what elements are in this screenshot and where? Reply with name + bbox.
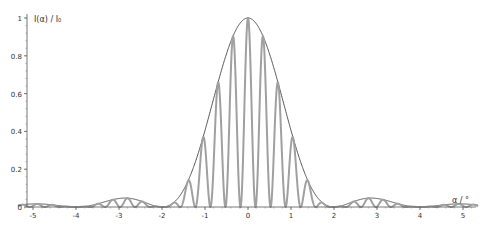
y-tick-label: 0.6 [11,91,23,99]
x-tick-label: 2 [332,212,336,220]
x-tick-label: 4 [418,212,423,220]
y-axis-label: I(α) / I₀ [34,15,61,24]
x-tick-label: -2 [159,212,166,220]
envelope-curve [18,18,478,207]
x-tick-label: -4 [73,212,81,220]
envelope-path [18,18,478,207]
x-tick-label: -1 [202,212,209,220]
chart-canvas: 00.20.40.60.81-5-4-3-2-1012345 I(α) / I₀… [0,0,482,228]
y-tick-label: 0.8 [11,53,22,61]
x-tick-label: 0 [246,212,250,220]
x-tick-label: 3 [375,212,379,220]
x-tick-label: 1 [289,212,293,220]
y-tick-label: 1 [18,15,22,23]
y-tick-label: 0.4 [11,128,23,136]
fringe-path [18,18,478,207]
x-tick-label: -3 [116,212,123,220]
x-axis-label: α / ° [452,196,469,205]
y-tick-label: 0.2 [11,166,22,174]
diffraction-chart: 00.20.40.60.81-5-4-3-2-1012345 I(α) / I₀… [0,0,482,228]
fringe-curve [18,18,478,207]
x-tick-label: -5 [30,212,37,220]
x-tick-label: 5 [461,212,465,220]
y-tick-label: 0 [18,204,22,212]
